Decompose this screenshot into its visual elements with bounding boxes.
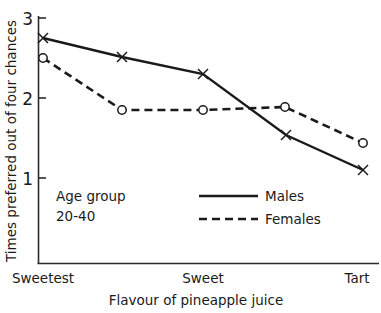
x-axis-title: Flavour of pineapple juice (109, 292, 283, 308)
data-point-males-5 (358, 165, 368, 175)
x-tick-label-tart: Tart (343, 270, 369, 286)
data-point-females-4 (281, 103, 289, 111)
chart-container: Times preferred out of four chances 3 2 … (0, 0, 381, 313)
annotation-age-group-line1: Age group (56, 188, 126, 204)
line-chart: Times preferred out of four chances 3 2 … (0, 0, 381, 313)
data-point-males-4 (281, 130, 291, 140)
data-point-females-5 (359, 139, 367, 147)
y-tick-label-2: 2 (22, 89, 33, 109)
annotation-age-group-line2: 20-40 (56, 208, 95, 224)
y-tick-label-3: 3 (22, 9, 33, 29)
y-axis-title: Times preferred out of four chances (3, 20, 19, 263)
x-tick-label-sweet: Sweet (182, 270, 224, 286)
x-tick-label-sweetest: Sweetest (12, 270, 74, 286)
data-point-females-3 (199, 106, 207, 114)
series-females-line (43, 58, 363, 143)
legend-label-females: Females (265, 211, 321, 227)
series-males-line (43, 38, 363, 170)
y-tick-label-1: 1 (22, 169, 33, 189)
data-point-females-1 (39, 54, 47, 62)
legend-label-males: Males (265, 188, 304, 204)
data-point-females-2 (118, 106, 126, 114)
